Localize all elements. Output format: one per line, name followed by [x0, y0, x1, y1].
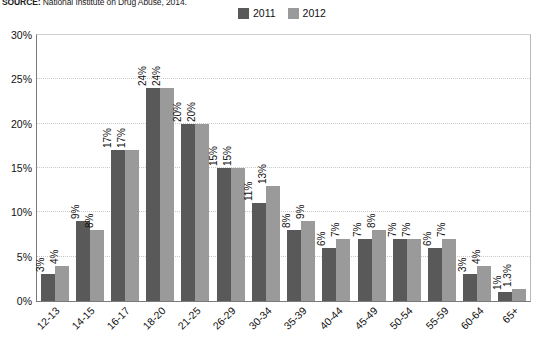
bar-group: 6%7% — [424, 35, 459, 301]
bar-2011-16-17[interactable]: 17% — [111, 150, 125, 301]
bar-group: 6%7% — [319, 35, 354, 301]
bar-2011-50-54[interactable]: 7% — [393, 239, 407, 301]
x-axis-tick-label: 12-13 — [35, 305, 61, 331]
bar-2011-35-39[interactable]: 8% — [287, 230, 301, 301]
bar-group: 9%8% — [72, 35, 107, 301]
bar-2011-55-59[interactable]: 6% — [428, 248, 442, 301]
bar-value-label: 8% — [282, 214, 292, 228]
y-axis-tick: 25% — [11, 73, 32, 85]
x-axis-tick-cell: 12-13 — [36, 303, 71, 345]
bar-group: 15%15% — [213, 35, 248, 301]
x-axis-tick-label: 14-15 — [70, 305, 96, 331]
legend-item-2012[interactable]: 2012 — [288, 8, 326, 19]
bar-2012-50-54[interactable]: 7% — [407, 239, 421, 301]
bar-2012-16-17[interactable]: 17% — [125, 150, 139, 301]
bar-2011-65+[interactable]: 1% — [498, 292, 512, 301]
bar-2011-45-49[interactable]: 7% — [358, 239, 372, 301]
x-axis-tick-cell: 45-49 — [354, 303, 389, 345]
x-axis-tick-label: 18-20 — [141, 305, 167, 331]
x-axis-labels: 12-1314-1516-1718-2021-2526-2930-3435-39… — [36, 303, 531, 345]
bar-2012-14-15[interactable]: 8% — [90, 230, 104, 301]
source-note: SOURCE: National Institute on Drug Abuse… — [2, 0, 187, 7]
x-axis-tick-cell: 65+ — [496, 303, 531, 345]
bar-2012-60-64[interactable]: 4% — [477, 266, 491, 301]
bar-value-label: 4% — [49, 249, 59, 263]
y-axis-tick: 0% — [17, 295, 32, 307]
y-axis-tick: 10% — [11, 206, 32, 218]
source-text: National Institute on Drug Abuse, 2014. — [41, 0, 187, 7]
x-axis-tick-cell: 21-25 — [177, 303, 212, 345]
x-axis-tick-label: 30-34 — [247, 305, 273, 331]
chart-plot-area: 0%5%10%15%20%25%30% 3%4%9%8%17%17%24%24%… — [36, 34, 531, 302]
bar-2011-60-64[interactable]: 3% — [463, 274, 477, 301]
bar-value-label: 15% — [209, 146, 219, 166]
bar-2012-45-49[interactable]: 8% — [372, 230, 386, 301]
bar-value-label: 6% — [317, 231, 327, 245]
bar-2011-21-25[interactable]: 20% — [181, 124, 195, 301]
bar-group: 20%20% — [178, 35, 213, 301]
bar-value-label: 8% — [85, 214, 95, 228]
bar-value-label: 3% — [458, 258, 468, 272]
bar-2012-35-39[interactable]: 9% — [301, 221, 315, 301]
x-axis-tick-label: 35-39 — [282, 305, 308, 331]
x-axis-tick-cell: 60-64 — [460, 303, 495, 345]
bar-2011-18-20[interactable]: 24% — [146, 88, 160, 301]
bar-value-label: 24% — [138, 66, 148, 86]
bar-group: 7%7% — [389, 35, 424, 301]
bar-value-label: 17% — [103, 128, 113, 148]
bar-2011-40-44[interactable]: 6% — [322, 248, 336, 301]
x-axis-tick-label: 50-54 — [388, 305, 414, 331]
bar-2011-12-13[interactable]: 3% — [41, 274, 55, 301]
bar-group: 7%8% — [354, 35, 389, 301]
x-axis-tick-cell: 18-20 — [142, 303, 177, 345]
bar-2011-26-29[interactable]: 15% — [217, 168, 231, 301]
x-axis-tick-cell: 30-34 — [248, 303, 283, 345]
x-axis-tick-cell: 16-17 — [107, 303, 142, 345]
bar-value-label: 7% — [402, 222, 412, 236]
bar-group: 3%4% — [37, 35, 72, 301]
x-axis-tick-label: 26-29 — [211, 305, 237, 331]
bar-2012-65+[interactable]: 1.3% — [512, 289, 526, 301]
legend-swatch-icon — [288, 8, 299, 19]
legend-swatch-icon — [238, 8, 249, 19]
bar-value-label: 7% — [388, 222, 398, 236]
bar-value-label: 11% — [244, 182, 254, 201]
bar-value-label: 7% — [437, 222, 447, 236]
bar-group: 8%9% — [284, 35, 319, 301]
bar-2012-30-34[interactable]: 13% — [266, 186, 280, 301]
source-label: SOURCE: — [2, 0, 41, 7]
y-axis-tick: 5% — [17, 251, 32, 263]
bar-2012-55-59[interactable]: 7% — [442, 239, 456, 301]
bar-group: 11%13% — [248, 35, 283, 301]
bar-value-label: 24% — [152, 66, 162, 86]
bar-value-label: 6% — [423, 231, 433, 245]
bar-value-label: 3% — [35, 258, 45, 272]
bar-value-label: 20% — [187, 102, 197, 122]
x-axis-tick-label: 45-49 — [353, 305, 379, 331]
bar-value-label: 7% — [331, 222, 341, 236]
y-axis-tick: 20% — [11, 118, 32, 130]
bar-value-label: 9% — [71, 205, 81, 219]
x-axis-tick-label: 21-25 — [176, 305, 202, 331]
y-axis-tick: 30% — [11, 29, 32, 41]
bar-group: 24%24% — [143, 35, 178, 301]
bar-value-label: 9% — [296, 205, 306, 219]
bar-value-label: 1.3% — [503, 265, 513, 288]
x-axis-tick-label: 16-17 — [105, 305, 131, 331]
bar-2011-30-34[interactable]: 11% — [252, 203, 266, 301]
bar-value-label: 20% — [173, 102, 183, 122]
x-axis-tick-label: 65+ — [501, 305, 521, 325]
bar-value-label: 7% — [352, 222, 362, 236]
x-axis-tick-cell: 35-39 — [284, 303, 319, 345]
x-axis-tick-cell: 55-59 — [425, 303, 460, 345]
plot-canvas: 0%5%10%15%20%25%30% 3%4%9%8%17%17%24%24%… — [37, 35, 530, 301]
x-axis-tick-label: 60-64 — [459, 305, 485, 331]
bar-2012-40-44[interactable]: 7% — [336, 239, 350, 301]
bar-groups: 3%4%9%8%17%17%24%24%20%20%15%15%11%13%8%… — [37, 35, 530, 301]
bar-group: 1%1.3% — [495, 35, 530, 301]
x-axis-tick-cell: 26-29 — [213, 303, 248, 345]
legend-label: 2012 — [303, 8, 326, 19]
bar-2012-12-13[interactable]: 4% — [55, 266, 69, 301]
legend-item-2011[interactable]: 2011 — [238, 8, 276, 19]
bar-2011-14-15[interactable]: 9% — [76, 221, 90, 301]
